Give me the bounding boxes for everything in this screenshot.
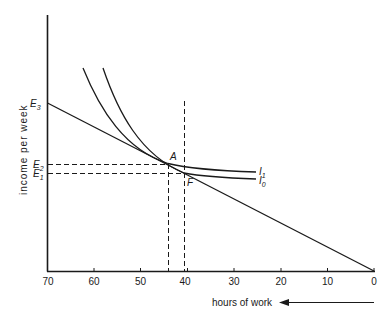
left-arrow-icon — [279, 299, 374, 306]
x-axis-label: hours of work — [212, 297, 273, 308]
labour-supply-diagram: 70 60 50 40 30 20 10 0 hours of work inc… — [0, 0, 392, 324]
x-tick-0: 0 — [371, 276, 377, 287]
x-tick-10: 10 — [322, 276, 334, 287]
x-tick-50: 50 — [135, 276, 147, 287]
label-point-f: F — [187, 177, 194, 188]
x-tick-20: 20 — [275, 276, 287, 287]
x-tick-30: 30 — [228, 276, 240, 287]
x-tick-labels: 70 60 50 40 30 20 10 0 — [42, 276, 377, 287]
y-axis-label: income per week — [18, 104, 29, 195]
x-ticks — [94, 268, 374, 271]
x-tick-60: 60 — [88, 276, 100, 287]
label-point-a: A — [169, 151, 177, 162]
label-e3: E3 — [30, 98, 41, 111]
budget-line — [48, 103, 375, 271]
indifference-curve-i0 — [103, 68, 256, 179]
x-tick-70: 70 — [42, 276, 54, 287]
x-tick-40: 40 — [179, 276, 191, 287]
